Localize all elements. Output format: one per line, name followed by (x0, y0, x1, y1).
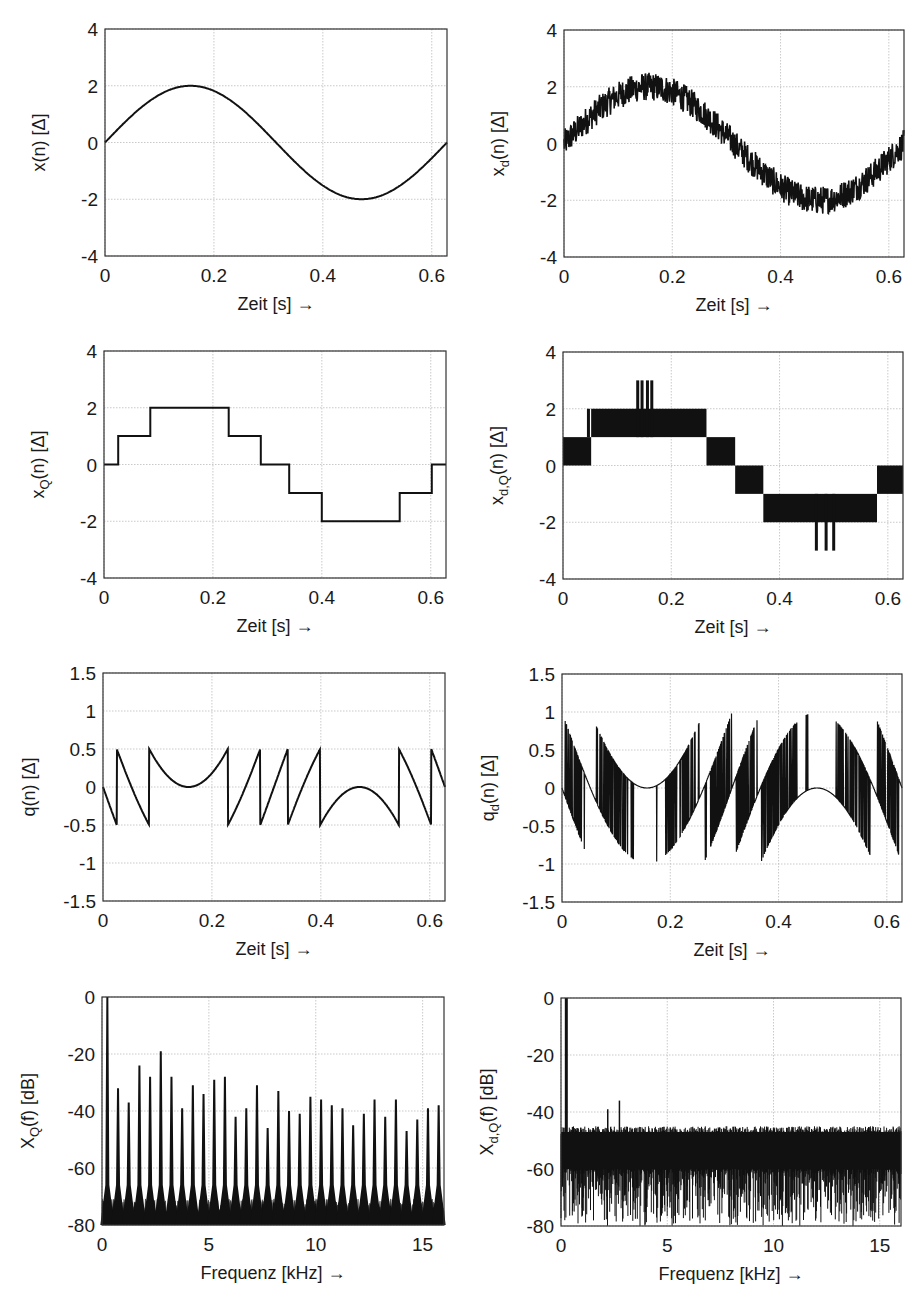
x-tick-label: 0.2 (199, 910, 225, 931)
y-tick-label: 0 (86, 455, 97, 476)
y-tick-label: 0 (85, 777, 96, 798)
y-axis-label: xQ(n) [Δ] (28, 430, 52, 498)
x-tick-label: 0.4 (767, 266, 794, 287)
y-axis-label: XQ(f) [dB] (18, 1073, 42, 1149)
y-tick-label: 0.5 (529, 740, 555, 761)
y-tick-label: 1.5 (529, 664, 555, 685)
y-tick-label: -1.5 (522, 892, 555, 913)
y-tick-label: -2 (81, 189, 98, 210)
y-tick-label: -4 (80, 568, 97, 589)
x-axis-label: Zeit [s] → (695, 295, 772, 315)
y-tick-label: -20 (527, 1045, 554, 1066)
y-axis-label: xd(n) [Δ] (488, 111, 512, 176)
x-tick-label: 0.6 (875, 588, 901, 609)
y-tick-label: -80 (68, 1215, 95, 1236)
y-tick-label: 4 (545, 342, 556, 363)
y-tick-label: 4 (86, 341, 97, 362)
x-tick-label: 0.6 (876, 266, 902, 287)
y-tick-label: -4 (540, 247, 557, 268)
y-tick-label: 0 (87, 133, 98, 154)
x-tick-label: 15 (412, 1234, 433, 1255)
chart-panel-xd: 00.20.40.6-4-2024Zeit [s] →xd(n) [Δ] (488, 20, 904, 315)
y-tick-label: 1 (85, 701, 96, 722)
x-axis-label: Zeit [s] → (236, 616, 313, 636)
x-tick-label: 0.6 (419, 265, 445, 286)
x-tick-label: 0 (557, 911, 568, 932)
x-tick-label: 5 (662, 1235, 673, 1256)
y-tick-label: 0 (546, 134, 557, 155)
x-tick-label: 0.6 (418, 587, 444, 608)
y-tick-label: 1.5 (70, 663, 96, 684)
y-tick-label: 2 (87, 76, 98, 97)
x-tick-label: 0 (97, 1234, 108, 1255)
x-axis-label: Zeit [s] → (237, 294, 314, 314)
chart-panel-x: 00.20.40.6-4-2024Zeit [s] →x(n) [Δ] (29, 19, 447, 314)
y-tick-label: -0.5 (63, 815, 96, 836)
x-tick-label: 0.2 (201, 265, 227, 286)
y-axis-label: x(n) [Δ] (29, 113, 49, 171)
x-tick-label: 0 (99, 587, 110, 608)
y-tick-label: -0.5 (522, 816, 555, 837)
x-tick-label: 0.4 (309, 587, 336, 608)
x-tick-label: 0.6 (874, 911, 900, 932)
x-tick-label: 0 (556, 1235, 567, 1256)
y-tick-label: 0.5 (70, 739, 96, 760)
x-tick-label: 10 (305, 1234, 326, 1255)
y-tick-label: 0 (543, 988, 554, 1009)
y-tick-label: 2 (546, 77, 557, 98)
y-tick-label: 2 (545, 399, 556, 420)
figure-svg: 00.20.40.6-4-2024Zeit [s] →x(n) [Δ]00.20… (0, 0, 924, 1302)
y-tick-label: -40 (527, 1102, 554, 1123)
y-axis-label: xd,Q(n) [Δ] (487, 426, 511, 505)
chart-panel-XQ: 051015-80-60-40-200Frequenz [kHz] →XQ(f)… (18, 987, 446, 1283)
chart-panel-q: 00.20.40.6-1.5-1-0.500.511.5Zeit [s] →q(… (19, 663, 445, 959)
x-tick-label: 0.4 (310, 265, 337, 286)
x-tick-label: 15 (869, 1235, 890, 1256)
x-tick-label: 10 (763, 1235, 784, 1256)
x-tick-label: 0 (98, 910, 109, 931)
y-tick-label: -2 (540, 190, 557, 211)
y-tick-label: -1.5 (63, 891, 96, 912)
y-tick-label: 4 (87, 19, 98, 40)
y-tick-label: 2 (86, 398, 97, 419)
x-axis-label: Frequenz [kHz] → (200, 1263, 345, 1283)
y-tick-label: -60 (68, 1158, 95, 1179)
y-tick-label: 1 (544, 702, 555, 723)
y-tick-label: -20 (68, 1044, 95, 1065)
x-tick-label: 0.2 (658, 588, 684, 609)
y-axis-label: q(n) [Δ] (19, 757, 39, 816)
x-tick-label: 0.2 (659, 266, 685, 287)
y-tick-label: -60 (527, 1159, 554, 1180)
y-tick-label: 0 (84, 987, 95, 1008)
x-tick-label: 0 (559, 266, 570, 287)
x-tick-label: 0.6 (417, 910, 443, 931)
x-tick-label: 0.4 (766, 588, 793, 609)
x-axis-label: Zeit [s] → (694, 617, 771, 637)
chart-panel-XdQ: 051015-80-60-40-200Frequenz [kHz] →Xd,Q(… (477, 988, 901, 1284)
y-axis-label: Xd,Q(f) [dB] (477, 1069, 501, 1156)
y-tick-label: -2 (80, 511, 97, 532)
y-tick-label: -2 (539, 512, 556, 533)
y-tick-label: -40 (68, 1101, 95, 1122)
chart-panel-xdQ: 00.20.40.6-4-2024Zeit [s] →xd,Q(n) [Δ] (487, 342, 903, 637)
y-tick-label: -80 (527, 1216, 554, 1237)
x-axis-label: Zeit [s] → (693, 940, 770, 960)
y-tick-label: 0 (544, 778, 555, 799)
x-tick-label: 0 (100, 265, 111, 286)
y-tick-label: -4 (81, 246, 98, 267)
x-tick-label: 5 (204, 1234, 215, 1255)
x-tick-label: 0.4 (765, 911, 792, 932)
figure: 00.20.40.6-4-2024Zeit [s] →x(n) [Δ]00.20… (0, 0, 924, 1302)
x-tick-label: 0 (558, 588, 569, 609)
chart-panel-qd: 00.20.40.6-1.5-1-0.500.511.5Zeit [s] →qd… (478, 664, 902, 960)
y-tick-label: 0 (545, 456, 556, 477)
x-tick-label: 0.2 (657, 911, 683, 932)
x-tick-label: 0.2 (200, 587, 226, 608)
x-axis-label: Zeit [s] → (235, 939, 312, 959)
x-axis-label: Frequenz [kHz] → (658, 1264, 803, 1284)
y-axis-label: qd(n) [Δ] (478, 755, 502, 821)
y-tick-label: -1 (79, 853, 96, 874)
y-tick-label: 4 (546, 20, 557, 41)
y-tick-label: -1 (538, 854, 555, 875)
chart-panel-xQ: 00.20.40.6-4-2024Zeit [s] →xQ(n) [Δ] (28, 341, 446, 636)
